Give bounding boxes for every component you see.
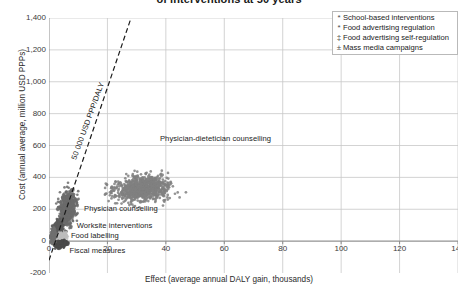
legend-item[interactable]: *Food advertising regulation (333, 23, 457, 33)
point-annotation: Food labelling (71, 231, 119, 240)
asterisk-marker-icon: * (335, 23, 343, 33)
legend-item-label: Mass media campaigns (343, 43, 423, 53)
point-annotation: Fiscal measures (69, 246, 125, 255)
double-dagger-marker-icon: ‡ (335, 33, 343, 43)
chart-container: of interventions at 50 years 1,4001,2001… (0, 0, 458, 287)
plus-minus-marker-icon: ± (335, 43, 343, 53)
x-tick-label: 60 (220, 245, 229, 253)
asterisk-marker-icon: * (335, 13, 343, 23)
point-annotation: Worksite interventions (77, 221, 153, 230)
series-cloud (49, 226, 57, 245)
chart-legend: *School-based interventions*Food adverti… (332, 11, 458, 55)
x-tick-label: 80 (278, 245, 287, 253)
legend-item-label: Food advertising self-regulation (343, 33, 449, 43)
y-tick-label: 1,400 (4, 14, 46, 22)
x-tick-label: 120 (393, 245, 406, 253)
legend-item-label: Food advertising regulation (343, 23, 435, 33)
chart-title: of interventions at 50 years (0, 0, 458, 5)
legend-item[interactable]: ‡Food advertising self-regulation (333, 33, 457, 43)
x-tick-label: 140 (451, 245, 458, 253)
x-tick-label: 20 (103, 245, 112, 253)
point-annotation: Physician-dietetician counselling (160, 134, 271, 143)
y-axis-title: Cost (annual average, million USD PPPs) (18, 40, 27, 210)
legend-item[interactable]: *School-based interventions (333, 13, 457, 23)
plot-area: 50 000 USD PPP/DALYPhysician-dietetician… (49, 18, 458, 273)
point-annotation: Physician counselling (84, 204, 158, 213)
legend-item-label: School-based interventions (343, 13, 435, 23)
legend-item[interactable]: ±Mass media campaigns (333, 43, 457, 53)
series-cloud (104, 169, 188, 208)
y-tick-label: 0 (4, 237, 46, 245)
x-axis-title: Effect (average annual DALY gain, thousa… (0, 275, 458, 284)
x-tick-label: 100 (334, 245, 347, 253)
x-tick-label: 40 (161, 245, 170, 253)
x-tick-label: 0 (47, 245, 51, 253)
